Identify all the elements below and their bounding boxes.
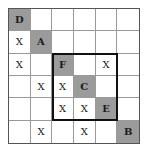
grid-cell-x: X	[52, 76, 74, 98]
letter-grid: DXAXFXXXCXXEXXB	[8, 8, 140, 144]
grid-cell-empty	[117, 31, 139, 53]
grid-cell-x: X	[9, 31, 31, 53]
grid-cell-empty	[117, 76, 139, 98]
grid-cell-empty	[96, 31, 118, 53]
grid-cell-empty	[9, 121, 31, 143]
grid-cell-empty	[52, 121, 74, 143]
grid-cell-labeled: B	[117, 121, 139, 143]
grid-cell-empty	[74, 54, 96, 76]
grid-cell-empty	[9, 98, 31, 120]
grid-cell-empty	[74, 9, 96, 31]
grid-cell-x: X	[31, 76, 53, 98]
grid-cell-empty	[52, 31, 74, 53]
grid-cell-empty	[9, 76, 31, 98]
grid-cell-empty	[96, 121, 118, 143]
grid-cell-labeled: A	[31, 31, 53, 53]
grid-cell-x: X	[52, 98, 74, 120]
grid-cell-labeled: D	[9, 9, 31, 31]
grid-cell-x: X	[31, 121, 53, 143]
grid-cell-empty	[52, 9, 74, 31]
grid-cell-empty	[96, 76, 118, 98]
grid-cell-labeled: C	[74, 76, 96, 98]
grid-cell-x: X	[96, 54, 118, 76]
grid-cell-empty	[117, 98, 139, 120]
grid-cell-empty	[117, 9, 139, 31]
grid-cell-empty	[31, 9, 53, 31]
grid-cell-x: X	[74, 121, 96, 143]
grid-cell-empty	[74, 31, 96, 53]
grid-cell-labeled: E	[96, 98, 118, 120]
grid-cell-empty	[96, 9, 118, 31]
grid-cell-empty	[31, 54, 53, 76]
grid-cell-empty	[117, 54, 139, 76]
grid-cell-x: X	[9, 54, 31, 76]
grid-cell-empty	[31, 98, 53, 120]
grid-cell-x: X	[74, 98, 96, 120]
grid-cell-labeled: F	[52, 54, 74, 76]
